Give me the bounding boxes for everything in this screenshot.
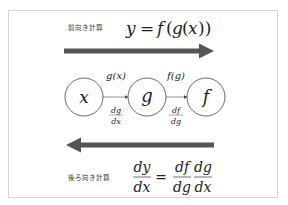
svg-text:=: =: [155, 169, 167, 185]
svg-text:)): )): [198, 18, 211, 38]
chain-rule-diagram: 前向き計算 y = f ( g ( x )) x g: [0, 0, 288, 205]
svg-text:=: =: [140, 18, 154, 38]
svg-text:dg: dg: [173, 179, 191, 195]
edge-label-backward-dg-dx: dg dx: [109, 106, 123, 126]
svg-text:x: x: [79, 87, 89, 107]
computation-graph: x g f g(x) dg dx f(g) df dg: [65, 70, 225, 126]
forward-arrow-icon: [64, 44, 214, 59]
svg-text:y: y: [125, 18, 136, 38]
edge-label-backward-df-dg: df dg: [169, 106, 183, 126]
svg-text:dg: dg: [171, 117, 181, 126]
svg-text:dx: dx: [134, 179, 151, 195]
forward-label: 前向き計算: [68, 23, 103, 32]
svg-text:dg: dg: [194, 159, 212, 175]
backward-formula: dy dx = df dg dg dx: [133, 159, 212, 195]
svg-text:dy: dy: [134, 159, 152, 175]
svg-text:dx: dx: [111, 117, 121, 126]
node-x: x: [65, 78, 103, 116]
svg-text:x: x: [188, 18, 198, 38]
svg-text:f: f: [155, 18, 166, 38]
backward-arrow-icon: [66, 138, 214, 153]
svg-text:df: df: [175, 159, 192, 175]
svg-text:dx: dx: [195, 179, 212, 195]
edge-label-forward-fg: f(g): [166, 70, 185, 81]
svg-text:df: df: [172, 106, 182, 115]
svg-text:f: f: [201, 86, 213, 107]
svg-text:g: g: [141, 85, 153, 106]
forward-formula: y = f ( g ( x )): [125, 18, 211, 38]
backward-label: 後ろ向き計算: [68, 173, 110, 182]
node-f: f: [187, 78, 225, 116]
edge-label-forward-gx: g(x): [106, 70, 126, 81]
svg-text:dg: dg: [111, 106, 121, 115]
node-g: g: [128, 78, 166, 116]
